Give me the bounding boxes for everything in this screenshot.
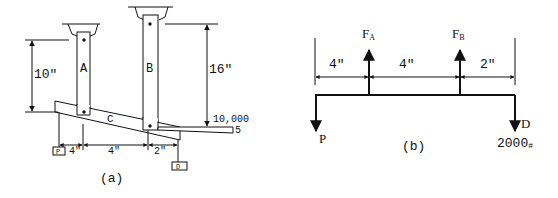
label-member-b: B bbox=[146, 62, 153, 76]
label-member-a: A bbox=[80, 62, 88, 76]
annotation-line2: 5 bbox=[235, 125, 241, 136]
label-member-c: C bbox=[107, 113, 114, 125]
figure-b-text: FA FB 4" 4" 2" P D 2000# (b) bbox=[319, 26, 533, 154]
label-load-p: P bbox=[56, 148, 60, 156]
dim-height-a: 10" bbox=[34, 67, 57, 82]
dim-b-span-3: 2" bbox=[480, 57, 496, 72]
label-d: D bbox=[521, 116, 530, 131]
caption-b: (b) bbox=[402, 139, 425, 154]
label-load-d: D bbox=[176, 163, 180, 171]
figure-b bbox=[315, 38, 515, 131]
dim-b-span-1: 4" bbox=[329, 57, 345, 72]
label-fb: FB bbox=[452, 26, 465, 42]
label-d-value: 2000# bbox=[497, 136, 533, 151]
annotation-line1: 10,000 bbox=[213, 114, 249, 125]
label-fa: FA bbox=[362, 26, 375, 42]
figure-a bbox=[25, 7, 233, 170]
label-p: P bbox=[319, 131, 326, 146]
caption-a: (a) bbox=[100, 171, 123, 186]
dim-span-2: 4" bbox=[108, 146, 120, 157]
member-c bbox=[55, 101, 180, 140]
dim-height-b: 16" bbox=[209, 62, 232, 77]
dim-b-span-2: 4" bbox=[399, 57, 415, 72]
dim-span-1: 4" bbox=[69, 146, 81, 157]
diagram-canvas: A B C 10" 16" 4" 4" 2" P D 10,000 5 (a) … bbox=[0, 0, 558, 198]
dim-span-3: 2" bbox=[154, 146, 166, 157]
